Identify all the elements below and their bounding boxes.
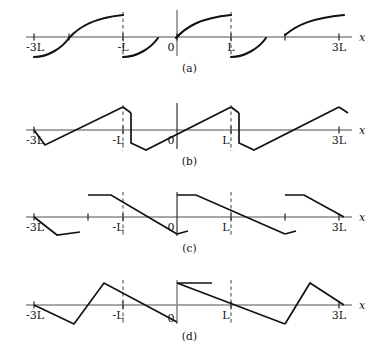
panel-b-caption: (b) [0, 155, 379, 167]
tick-label-zero: 0 [168, 312, 175, 325]
curve-segment [177, 231, 188, 234]
tick-label-L: L [222, 309, 230, 322]
panel-b-plot: -3L -L 0 L 3L x [0, 93, 379, 157]
curve-segment [285, 195, 344, 217]
tick-label-minus-L: -L [112, 309, 124, 322]
curve-segment [34, 283, 177, 324]
tick-label-minus-3L: -3L [26, 221, 45, 234]
curve-series-c [34, 195, 344, 235]
curve-segment [339, 107, 348, 113]
curve-segment [34, 107, 123, 145]
panel-d-plot: -3L -L 0 L 3L x [0, 272, 379, 336]
tick-label-minus-L: -L [112, 221, 124, 234]
tick-label-zero: 0 [168, 41, 175, 54]
figure-root: -3L -L 0 L 3L x (a) [0, 0, 379, 364]
curve-segment [69, 15, 123, 38]
panel-d: -3L -L 0 L 3L x (d) [0, 272, 379, 336]
curve-segment [239, 107, 339, 150]
x-axis-label: x [359, 31, 366, 44]
curve-series-a [34, 15, 344, 57]
panel-d-caption: (d) [0, 330, 379, 342]
curve-series-b [34, 107, 348, 150]
curve-segment [176, 15, 231, 38]
panel-c: -3L -L 0 L 3L x (c) [0, 184, 379, 248]
tick-label-zero: 0 [168, 134, 175, 147]
tick-label-L: L [227, 41, 235, 54]
tick-label-L: L [222, 134, 230, 147]
tick-label-minus-3L: -3L [26, 41, 45, 54]
panel-c-caption: (c) [0, 242, 379, 254]
tick-label-minus-3L: -3L [26, 309, 45, 322]
panel-a-plot: -3L -L 0 L 3L x [0, 0, 379, 64]
curve-segment [285, 15, 344, 35]
curve-segment [88, 195, 177, 234]
panel-a: -3L -L 0 L 3L x (a) [0, 0, 379, 64]
curve-segment [231, 107, 239, 113]
tick-label-zero: 0 [168, 221, 175, 234]
x-axis-label: x [359, 211, 366, 224]
curve-segment [131, 107, 231, 150]
tick-label-3L: 3L [332, 221, 347, 234]
curve-segment [285, 231, 296, 234]
panel-a-caption: (a) [0, 62, 379, 74]
x-axis-label: x [359, 124, 366, 137]
tick-label-3L: 3L [332, 309, 347, 322]
tick-label-minus-3L: -3L [26, 134, 45, 147]
curve-segment [231, 38, 266, 57]
curve-series-d [34, 283, 344, 324]
tick-label-minus-L: -L [112, 134, 124, 147]
curve-segment [123, 107, 131, 113]
panel-c-plot: -3L -L 0 L 3L x [0, 184, 379, 248]
tick-label-3L: 3L [332, 41, 347, 54]
tick-label-L: L [222, 221, 230, 234]
tick-label-minus-L: -L [117, 41, 129, 54]
x-axis-label: x [359, 299, 366, 312]
panel-b: -3L -L 0 L 3L x (b) [0, 93, 379, 157]
tick-label-3L: 3L [332, 134, 347, 147]
